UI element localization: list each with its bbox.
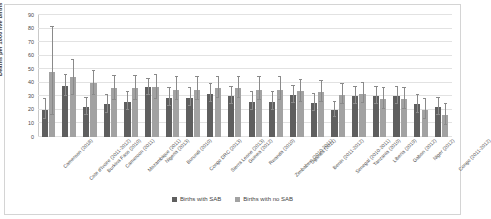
error-bar-cap bbox=[340, 103, 343, 104]
error-bar bbox=[417, 95, 418, 113]
error-bar bbox=[169, 88, 170, 106]
error-bar bbox=[218, 77, 219, 97]
error-bar bbox=[93, 71, 94, 95]
bar-group bbox=[266, 15, 287, 137]
error-bar-cap bbox=[133, 75, 136, 76]
error-bar-cap bbox=[361, 102, 364, 103]
error-bar-cap bbox=[299, 101, 302, 102]
error-bar bbox=[231, 87, 232, 105]
legend-item-births-with-sab: Births with SAB bbox=[172, 196, 221, 202]
error-bar-cap bbox=[71, 94, 74, 95]
error-bar-cap bbox=[444, 103, 447, 104]
error-bar-cap bbox=[84, 97, 87, 98]
error-bar-cap bbox=[237, 97, 240, 98]
error-bar-cap bbox=[416, 112, 419, 113]
error-bar bbox=[156, 75, 157, 99]
error-bar-cap bbox=[374, 103, 377, 104]
error-bar-cap bbox=[257, 76, 260, 77]
error-bar-cap bbox=[146, 94, 149, 95]
error-bar-cap bbox=[361, 82, 364, 83]
error-bar bbox=[148, 79, 149, 95]
bar-group bbox=[390, 15, 411, 137]
error-bar bbox=[425, 99, 426, 119]
error-bar-cap bbox=[175, 76, 178, 77]
y-axis-tick-label: 50 bbox=[28, 67, 34, 72]
error-bar bbox=[86, 98, 87, 116]
bar-group bbox=[245, 15, 266, 137]
y-axis-tick-label: 90 bbox=[28, 12, 34, 17]
error-bar-cap bbox=[353, 103, 356, 104]
error-bar bbox=[293, 86, 294, 104]
legend-label: Births with SAB bbox=[180, 196, 221, 202]
error-bar-cap bbox=[64, 74, 67, 75]
y-axis-tick-label: 30 bbox=[28, 94, 34, 99]
legend-swatch-icon bbox=[172, 197, 177, 202]
error-bar-cap bbox=[436, 114, 439, 115]
bar-group bbox=[286, 15, 307, 137]
error-bar bbox=[73, 60, 74, 95]
error-bar bbox=[210, 84, 211, 102]
error-bar-cap bbox=[312, 110, 315, 111]
error-bar bbox=[342, 84, 343, 104]
bar-group bbox=[349, 15, 370, 137]
error-bar bbox=[321, 81, 322, 101]
error-bar bbox=[314, 94, 315, 112]
error-bar bbox=[135, 76, 136, 100]
error-bar-cap bbox=[92, 70, 95, 71]
error-bar-cap bbox=[319, 101, 322, 102]
error-bar bbox=[252, 92, 253, 110]
y-axis-tick-labels: 0102030405060708090 bbox=[18, 15, 36, 137]
error-bar-cap bbox=[271, 109, 274, 110]
error-bar bbox=[280, 77, 281, 100]
bar-group bbox=[142, 15, 163, 137]
error-bar bbox=[300, 80, 301, 102]
error-bar bbox=[238, 77, 239, 97]
y-axis-tick-label: 80 bbox=[28, 26, 34, 31]
error-bar-cap bbox=[374, 86, 377, 87]
error-bar-cap bbox=[154, 98, 157, 99]
error-bar-cap bbox=[175, 99, 178, 100]
error-bar-cap bbox=[209, 83, 212, 84]
bar-group bbox=[59, 15, 80, 137]
y-axis-title: Deaths per 1000 live births bbox=[0, 2, 3, 76]
bar-group bbox=[183, 15, 204, 137]
error-bar-cap bbox=[92, 94, 95, 95]
error-bar-cap bbox=[382, 108, 385, 109]
error-bar-cap bbox=[50, 114, 53, 115]
error-bar-cap bbox=[229, 86, 232, 87]
bar-group bbox=[307, 15, 328, 137]
error-bar-cap bbox=[271, 91, 274, 92]
error-bar bbox=[376, 87, 377, 105]
error-bar-cap bbox=[195, 76, 198, 77]
y-axis-tick-label: 20 bbox=[28, 107, 34, 112]
error-bar-cap bbox=[50, 26, 53, 27]
bar-group bbox=[369, 15, 390, 137]
y-axis-tick-label: 0 bbox=[31, 134, 34, 139]
error-bar-cap bbox=[112, 75, 115, 76]
error-bar-cap bbox=[278, 76, 281, 77]
bar-group bbox=[204, 15, 225, 137]
error-bar-cap bbox=[395, 103, 398, 104]
error-bar-cap bbox=[333, 116, 336, 117]
error-bar-cap bbox=[436, 97, 439, 98]
error-bar-cap bbox=[229, 103, 232, 104]
error-bar-cap bbox=[167, 105, 170, 106]
error-bar bbox=[197, 77, 198, 100]
x-axis-tick-label: Cote d'Ivoire (2011-2012) bbox=[88, 138, 131, 181]
error-bar-cap bbox=[126, 109, 129, 110]
x-axis-tick-label: Congo (2011-2012) bbox=[457, 138, 491, 172]
error-bar bbox=[65, 75, 66, 97]
bar-group bbox=[224, 15, 245, 137]
legend-item-births-with-no-sab: Births with no SAB bbox=[235, 196, 293, 202]
error-bar-cap bbox=[105, 94, 108, 95]
error-bar bbox=[127, 92, 128, 110]
error-bar-cap bbox=[216, 97, 219, 98]
error-bar bbox=[52, 27, 53, 115]
error-bar-cap bbox=[257, 99, 260, 100]
y-axis-tick-label: 70 bbox=[28, 39, 34, 44]
bar-group bbox=[38, 15, 59, 137]
error-bar-cap bbox=[319, 80, 322, 81]
error-bar-cap bbox=[43, 118, 46, 119]
legend-swatch-icon bbox=[235, 197, 240, 202]
error-bar bbox=[259, 77, 260, 100]
